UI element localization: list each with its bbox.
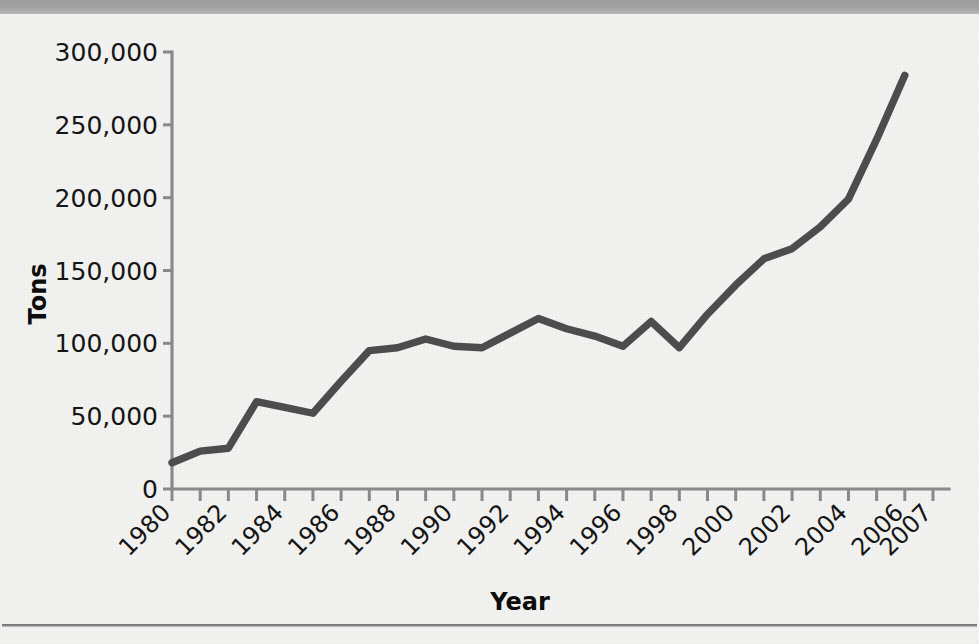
x-axis-tick-label: 1992: [451, 498, 514, 561]
y-axis-tick-labels: 050,000100,000150,000200,000250,000300,0…: [55, 38, 158, 504]
x-axis-tick-label: 2002: [733, 498, 796, 561]
x-axis-tick-label: 1980: [113, 498, 176, 561]
bottom-divider: [2, 624, 977, 627]
y-axis-title-text: Tons: [24, 263, 52, 324]
x-axis-tick-label: 1990: [395, 498, 458, 561]
x-axis-tick-labels: 1980198219841986198819901992199419961998…: [113, 498, 937, 561]
x-axis-tick-label: 1996: [564, 498, 627, 561]
y-axis-tick-label: 200,000: [55, 184, 158, 213]
y-axis-tick-label: 150,000: [55, 257, 158, 286]
data-series-line: [172, 75, 905, 462]
x-axis-tick-label: 1984: [226, 498, 289, 561]
x-axis-tick-label: 1994: [508, 498, 571, 561]
x-axis-title-text: Year: [489, 588, 550, 616]
chart-plot-region: Tons 050,000100,000150,000200,000250,000…: [0, 14, 979, 624]
x-axis-tick-label: 2004: [790, 498, 853, 561]
x-axis-tick-label: 2000: [677, 498, 740, 561]
y-axis-tick-label: 50,000: [71, 402, 158, 431]
y-axis-tick-label: 250,000: [55, 111, 158, 140]
top-banner: [0, 0, 979, 14]
x-axis-tick-marks: [172, 489, 933, 501]
x-axis-tick-label: 1986: [282, 498, 345, 561]
x-axis-tick-label: 1982: [170, 498, 233, 561]
x-axis-tick-label: 1998: [621, 498, 684, 561]
y-axis-tick-label: 100,000: [55, 329, 158, 358]
y-axis-title: Tons: [24, 263, 52, 324]
x-axis-tick-label: 1988: [339, 498, 402, 561]
chart-page: Tons 050,000100,000150,000200,000250,000…: [0, 0, 979, 644]
y-axis-tick-label: 300,000: [55, 38, 158, 67]
line-chart: Tons 050,000100,000150,000200,000250,000…: [0, 14, 979, 624]
